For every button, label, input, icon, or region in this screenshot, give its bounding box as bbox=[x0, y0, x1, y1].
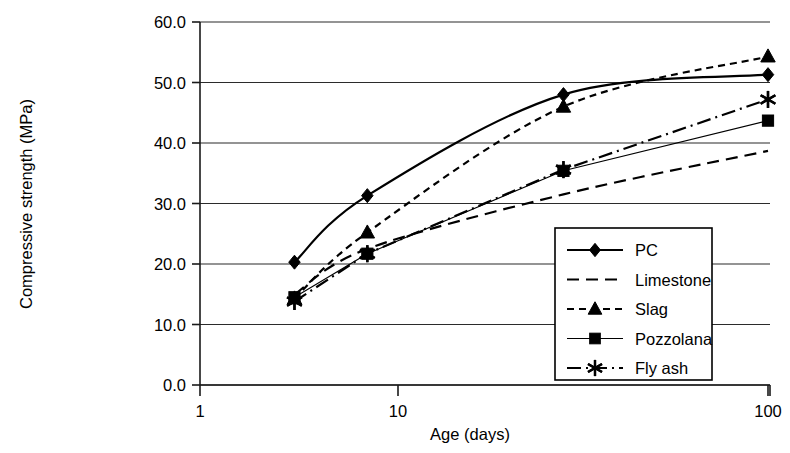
legend-label: Pozzolana bbox=[635, 330, 713, 348]
legend-label: Fly ash bbox=[635, 359, 688, 377]
x-tick-label: 100 bbox=[754, 402, 782, 420]
y-tick-label: 30.0 bbox=[154, 195, 186, 213]
legend-label: PC bbox=[635, 241, 658, 259]
legend-label: Limestone bbox=[635, 271, 711, 289]
y-tick-label: 10.0 bbox=[154, 316, 186, 334]
x-tick-labels: 110100 bbox=[195, 402, 781, 420]
y-tick-label: 0.0 bbox=[163, 376, 186, 394]
y-tick-marks bbox=[192, 22, 200, 385]
marker-asterisk bbox=[761, 91, 776, 108]
chart-legend: PCLimestoneSlagPozzolanaFly ash bbox=[555, 228, 713, 380]
y-tick-label: 50.0 bbox=[154, 74, 186, 92]
x-axis-title: Age (days) bbox=[430, 425, 510, 443]
marker-diamond bbox=[362, 189, 373, 203]
line-chart-canvas: 0.010.020.030.040.050.060.0 110100 Compr… bbox=[0, 0, 790, 453]
x-tick-marks bbox=[200, 385, 770, 396]
y-tick-labels: 0.010.020.030.040.050.060.0 bbox=[154, 13, 186, 394]
chart-figure: 0.010.020.030.040.050.060.0 110100 Compr… bbox=[0, 0, 790, 453]
x-tick-label: 10 bbox=[389, 402, 407, 420]
marker-square bbox=[590, 333, 601, 344]
y-tick-label: 60.0 bbox=[154, 13, 186, 31]
legend-label: Slag bbox=[635, 300, 668, 318]
marker-triangle bbox=[761, 49, 775, 62]
x-tick-label: 1 bbox=[195, 402, 204, 420]
y-tick-label: 40.0 bbox=[154, 134, 186, 152]
y-axis-title: Compressive strength (MPa) bbox=[17, 99, 35, 309]
y-tick-label: 20.0 bbox=[154, 255, 186, 273]
marker-diamond bbox=[762, 68, 773, 82]
marker-triangle bbox=[360, 225, 374, 238]
marker-square bbox=[762, 115, 773, 126]
